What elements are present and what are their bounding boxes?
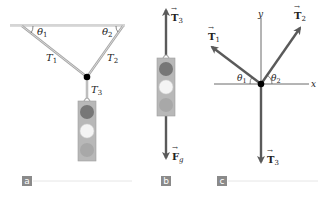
svg-text:→: →: [294, 3, 300, 11]
label-theta2: θ2: [102, 26, 113, 39]
label-fg: Fg: [172, 151, 184, 164]
svg-text:b: b: [163, 176, 169, 186]
knot: [84, 74, 91, 81]
panel-b: T3 → Fg → b: [157, 5, 184, 186]
y-axis-label: y: [257, 9, 264, 19]
arrow-accent: →: [171, 5, 177, 13]
label-theta1: θ1: [37, 26, 48, 39]
svg-text:→: →: [172, 144, 178, 152]
origin-knot: [258, 81, 265, 88]
light-top: [80, 105, 94, 119]
label-theta2-c: θ2: [271, 73, 281, 85]
panel-a: θ1 θ2 T1 T2 T3 a: [10, 24, 132, 186]
vector-t2: [261, 28, 300, 84]
svg-text:a: a: [24, 176, 30, 186]
label-t3-vector-c: T3: [267, 154, 279, 167]
svg-text:c: c: [220, 176, 225, 186]
traffic-light-b: [157, 55, 175, 116]
label-t3: T3: [91, 84, 102, 97]
physics-diagram: θ1 θ2 T1 T2 T3 a T3 → Fg →: [0, 0, 329, 199]
label-t2-vector: T2: [294, 10, 306, 23]
label-t1-vector: T1: [208, 31, 220, 44]
x-axis-label: x: [311, 79, 316, 89]
panel-c: y x θ1 θ2 T1 → T2 → T3 → c: [208, 3, 318, 186]
svg-text:→: →: [208, 24, 214, 32]
angle-arc-theta1-c: [250, 77, 252, 84]
light-middle: [80, 124, 94, 138]
svg-text:→: →: [267, 147, 273, 155]
traffic-light-a: [78, 98, 96, 161]
light-bottom: [80, 143, 94, 157]
angle-arc-theta1: [31, 26, 33, 33]
label-t3-vector-b: T3: [171, 12, 183, 25]
label-theta1-c: θ1: [237, 73, 247, 85]
label-t2: T2: [107, 52, 118, 65]
label-t1: T1: [46, 52, 57, 65]
